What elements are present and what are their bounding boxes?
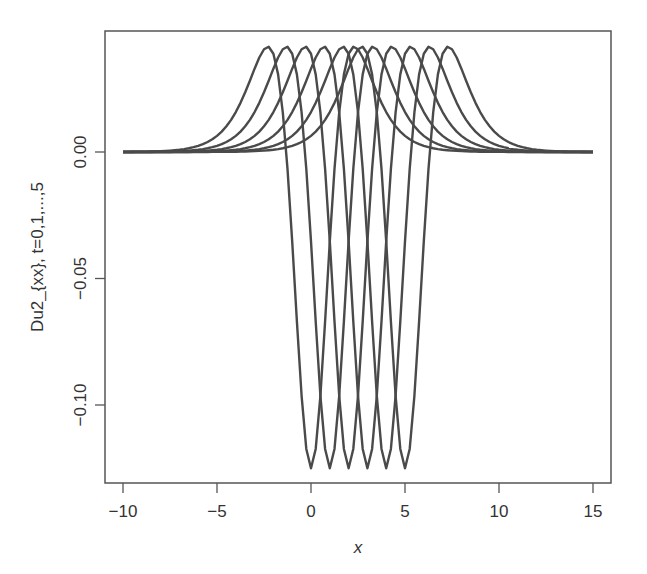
chart: −10−5051015 0.00−0.05−0.10 x Du2_{xx}, t… [0,0,647,574]
y-axis-title: Du2_{xx}, t=0,1,...,5 [28,182,47,332]
x-tick-label: 10 [490,502,509,521]
y-tick-label: −0.10 [71,383,90,426]
y-tick-label: −0.05 [71,257,90,300]
y-tick-label: 0.00 [71,135,90,168]
x-tick-label: 15 [584,502,603,521]
curves [123,47,593,469]
x-tick-label: 5 [400,502,409,521]
x-axis: −10−5051015 [109,483,603,521]
plot-frame [105,31,611,483]
y-axis: 0.00−0.05−0.10 [71,135,105,426]
x-tick-label: −5 [207,502,226,521]
x-tick-label: −10 [109,502,138,521]
x-axis-title: x [353,538,363,557]
x-tick-label: 0 [306,502,315,521]
